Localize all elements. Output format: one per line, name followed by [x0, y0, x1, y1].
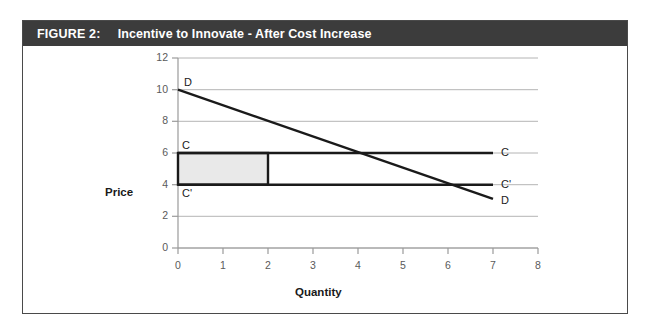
y-axis-title: Price: [105, 186, 133, 198]
chart-area: Price Quantity 12 10 8 6 4 2 0 0 1 2 3 4…: [23, 46, 627, 313]
x-tick-label-0: 0: [168, 259, 188, 271]
x-tick-label-3: 3: [303, 259, 323, 271]
y-tick-label-10: 10: [148, 83, 168, 95]
figure-title-bar: FIGURE 2: Incentive to Innovate - After …: [23, 21, 627, 46]
chart-plot-svg: [23, 46, 627, 313]
annotation-demand-left: D: [184, 76, 192, 88]
x-tick-label-7: 7: [483, 259, 503, 271]
y-tick-label-0: 0: [148, 241, 168, 253]
figure-page: FIGURE 2: Incentive to Innovate - After …: [0, 0, 649, 332]
x-tick-label-1: 1: [213, 259, 233, 271]
x-axis-ticks: [178, 248, 538, 254]
annotation-cost-c-prime-right: C': [501, 178, 511, 190]
y-tick-label-2: 2: [148, 209, 168, 221]
annotation-cost-c-left: C: [182, 139, 190, 151]
y-tick-label-4: 4: [148, 178, 168, 190]
x-tick-label-4: 4: [348, 259, 368, 271]
y-tick-label-12: 12: [148, 51, 168, 63]
annotation-demand-right: D: [501, 194, 509, 206]
figure-title-text: Incentive to Innovate - After Cost Incre…: [118, 27, 372, 41]
figure-number-label: FIGURE 2:: [37, 27, 101, 41]
x-tick-label-2: 2: [258, 259, 278, 271]
innovation-profit-rectangle: [178, 153, 268, 185]
x-tick-label-6: 6: [438, 259, 458, 271]
annotation-cost-c-prime-left: C': [182, 187, 192, 199]
x-tick-label-8: 8: [528, 259, 548, 271]
y-tick-label-6: 6: [148, 146, 168, 158]
figure-frame: FIGURE 2: Incentive to Innovate - After …: [22, 20, 628, 314]
x-axis-title: Quantity: [295, 286, 342, 298]
annotation-cost-c-right: C: [501, 146, 509, 158]
x-tick-label-5: 5: [393, 259, 413, 271]
y-tick-label-8: 8: [148, 114, 168, 126]
